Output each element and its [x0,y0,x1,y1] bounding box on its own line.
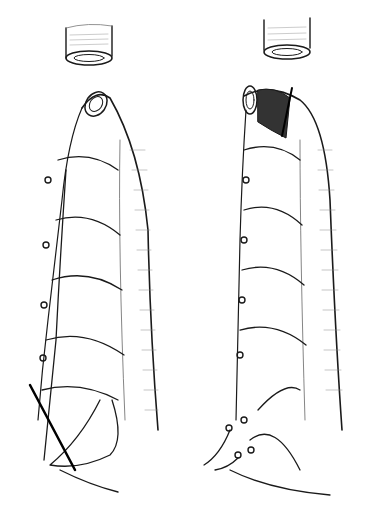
bowel-illustration [0,0,382,514]
right-hatching [318,150,342,390]
right-panel [204,18,342,495]
right-top-segment [264,18,310,59]
left-resection-line [30,385,75,470]
right-ligatures [226,177,254,458]
left-top-segment [66,24,112,65]
left-panel [30,24,158,492]
right-shaded-end [258,89,290,138]
left-bowel-limb [38,88,158,430]
right-vessel-arcades [204,147,330,495]
illustration-canvas [0,0,382,514]
left-vessel-arcades [42,157,124,492]
left-ligatures [40,177,51,361]
right-bowel-limb [236,86,342,430]
